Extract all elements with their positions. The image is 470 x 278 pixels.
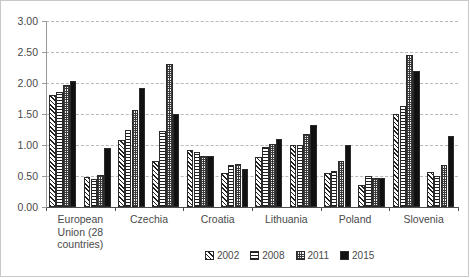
x-tick-mark <box>115 207 116 211</box>
bar-2015-3 <box>173 114 179 207</box>
bar-group <box>252 21 286 207</box>
bar-2011-9 <box>372 178 378 207</box>
bar-2008-3 <box>159 131 165 207</box>
legend-item-2008[interactable]: 2008 <box>250 250 284 261</box>
legend-item-2015[interactable]: 2015 <box>340 250 374 261</box>
bar-2011-0 <box>63 85 69 207</box>
x-tick-label-line: Slovenia <box>384 213 464 226</box>
bar-2008-0 <box>56 92 62 207</box>
bar-2015-8 <box>345 145 351 207</box>
bar-2011-11 <box>441 165 447 207</box>
y-tick-mark <box>42 83 47 84</box>
x-tick-label: Slovenia <box>384 213 464 226</box>
x-tick-mark <box>183 207 184 211</box>
bar-2008-9 <box>365 176 371 207</box>
legend-label-2015: 2015 <box>352 250 374 261</box>
bar-2008-4 <box>194 152 200 207</box>
x-tick-mark <box>389 207 390 211</box>
bar-group <box>286 21 320 207</box>
bar-2015-9 <box>379 178 385 207</box>
bar-2002-0 <box>49 95 55 207</box>
x-tick-label-line: countries) <box>40 238 120 251</box>
y-axis-labels: 0.000.501.001.502.002.503.00 <box>0 0 40 278</box>
y-tick-mark <box>42 207 47 208</box>
x-tick-mark <box>458 207 459 211</box>
bar-group <box>115 21 149 207</box>
y-tick-label: 2.50 <box>0 46 38 58</box>
bar-group <box>80 21 114 207</box>
bar-2008-2 <box>125 130 131 208</box>
bar-2011-7 <box>303 134 309 207</box>
bar-2015-2 <box>139 88 145 207</box>
bar-2015-11 <box>448 136 454 207</box>
legend-label-2011: 2011 <box>308 250 330 261</box>
bar-chart: 0.000.501.001.502.002.503.00 EuropeanUni… <box>0 0 470 278</box>
bar-group <box>218 21 252 207</box>
bar-2011-1 <box>97 175 103 207</box>
plot-area <box>46 21 458 207</box>
bar-2015-6 <box>276 139 282 207</box>
legend-item-2002[interactable]: 2002 <box>205 250 239 261</box>
bar-2008-1 <box>91 179 97 207</box>
y-tick-mark <box>42 21 47 22</box>
bar-2002-6 <box>255 157 261 207</box>
bar-2011-6 <box>269 144 275 207</box>
bar-group <box>46 21 80 207</box>
bar-2002-5 <box>221 173 227 207</box>
x-tick-mark <box>252 207 253 211</box>
y-tick-label: 3.00 <box>0 15 38 27</box>
bar-2002-10 <box>393 114 399 207</box>
bar-2008-8 <box>331 171 337 207</box>
bar-2011-2 <box>132 110 138 207</box>
bar-2008-5 <box>228 165 234 207</box>
bar-2015-7 <box>310 125 316 207</box>
y-tick-label: 2.00 <box>0 77 38 89</box>
bar-2002-3 <box>152 161 158 208</box>
bar-2008-6 <box>262 147 268 207</box>
bar-2002-4 <box>187 150 193 207</box>
x-tick-label-line: Union (28 <box>40 226 120 239</box>
bar-2015-4 <box>207 156 213 207</box>
y-tick-label: 1.00 <box>0 139 38 151</box>
bar-2002-9 <box>358 185 364 207</box>
chart-legend: 2002200820112015 <box>205 250 385 261</box>
legend-swatch-2011 <box>296 251 305 260</box>
bar-2002-11 <box>427 172 433 207</box>
x-tick-mark <box>321 207 322 211</box>
legend-label-2002: 2002 <box>217 250 239 261</box>
bar-2008-10 <box>400 106 406 207</box>
bar-group <box>355 21 389 207</box>
bar-2015-1 <box>104 148 110 207</box>
bar-2011-3 <box>166 64 172 207</box>
legend-swatch-2015 <box>340 251 349 260</box>
bar-2002-1 <box>84 177 90 207</box>
bar-2002-2 <box>118 140 124 207</box>
legend-swatch-2008 <box>250 251 259 260</box>
bar-2002-7 <box>290 145 296 207</box>
y-tick-mark <box>42 145 47 146</box>
bar-2011-5 <box>235 164 241 207</box>
bar-group <box>149 21 183 207</box>
bar-2008-11 <box>434 176 440 207</box>
bar-2011-4 <box>200 156 206 207</box>
bar-2015-5 <box>242 169 248 207</box>
y-tick-label: 0.50 <box>0 170 38 182</box>
bar-group <box>183 21 217 207</box>
y-tick-label: 0.00 <box>0 201 38 213</box>
bar-2015-0 <box>70 81 76 207</box>
y-tick-label: 1.50 <box>0 108 38 120</box>
legend-item-2011[interactable]: 2011 <box>296 250 330 261</box>
legend-label-2008: 2008 <box>262 250 284 261</box>
bar-group <box>389 21 423 207</box>
y-tick-mark <box>42 52 47 53</box>
legend-swatch-2002 <box>205 251 214 260</box>
bar-2002-8 <box>324 173 330 207</box>
bar-2008-7 <box>297 145 303 207</box>
y-tick-mark <box>42 114 47 115</box>
bar-group <box>424 21 458 207</box>
y-tick-mark <box>42 176 47 177</box>
bar-group <box>321 21 355 207</box>
bar-2015-10 <box>413 71 419 207</box>
bar-2011-8 <box>338 161 344 207</box>
bar-2011-10 <box>406 55 412 207</box>
